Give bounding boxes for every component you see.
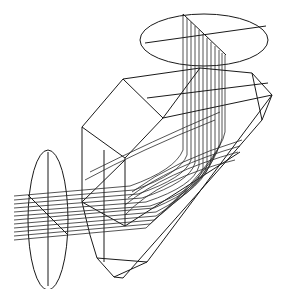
prism-ray-diagram <box>0 0 281 289</box>
prism <box>82 68 272 278</box>
output-lens <box>140 14 268 66</box>
input-lens <box>28 150 68 289</box>
diagram-canvas <box>0 0 281 289</box>
